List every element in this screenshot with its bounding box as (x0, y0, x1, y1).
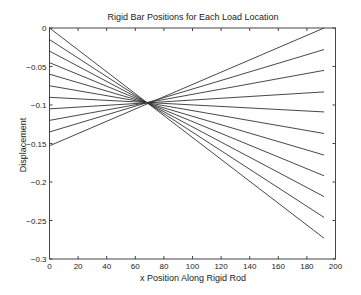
y-tick-label: −0.15 (26, 140, 47, 149)
x-tick-label: 200 (329, 262, 343, 271)
x-tick-label: 100 (186, 262, 200, 271)
y-tick-label: 0 (42, 24, 47, 33)
x-tick-label: 80 (159, 262, 168, 271)
y-tick-label: −0.05 (26, 63, 47, 72)
y-tick-label: −0.25 (26, 217, 47, 226)
x-tick-label: 160 (272, 262, 286, 271)
chart-title: Rigid Bar Positions for Each Load Locati… (107, 12, 278, 22)
y-tick-label: −0.1 (31, 101, 47, 110)
y-tick-label: −0.3 (31, 255, 47, 264)
chart: Rigid Bar Positions for Each Load Locati… (0, 0, 361, 295)
x-tick-label: 60 (131, 262, 140, 271)
y-axis-label: Displacement (18, 117, 28, 172)
x-tick-label: 40 (102, 262, 111, 271)
x-tick-label: 180 (300, 262, 314, 271)
x-tick-label: 140 (243, 262, 257, 271)
x-axis-label: x Position Along Rigid Rod (140, 273, 246, 283)
y-tick-label: −0.2 (31, 178, 47, 187)
x-tick-label: 20 (74, 262, 83, 271)
plot-area (50, 28, 336, 259)
x-tick-label: 0 (47, 262, 52, 271)
x-tick-label: 120 (214, 262, 228, 271)
